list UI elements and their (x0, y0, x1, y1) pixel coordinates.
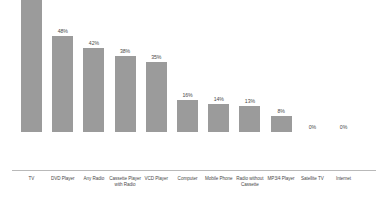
bar-column: 35% (141, 0, 172, 132)
bar (239, 106, 260, 132)
bar-group: 35% (141, 0, 172, 132)
bar-value-label: 13% (234, 98, 265, 104)
bar-value-label: 0% (297, 124, 328, 130)
bar-group: 48% (47, 0, 78, 132)
bar (83, 48, 104, 132)
bar-group: 16% (172, 0, 203, 132)
bar (208, 104, 229, 132)
bar-value-label: 8% (266, 108, 297, 114)
plot-area: 74%48%42%38%35%16%14%13%8%0%0% (0, 0, 385, 171)
bar-group: 14% (203, 0, 234, 132)
bar (21, 0, 42, 132)
bar-column: 8% (266, 0, 297, 132)
bar-group: 8% (266, 0, 297, 132)
bar-group: 0% (328, 0, 359, 132)
bar-value-label: 48% (47, 28, 78, 34)
bar-column: 0% (328, 0, 359, 132)
bar (146, 62, 167, 132)
bar-column: 42% (78, 0, 109, 132)
bar (52, 36, 73, 132)
bar (177, 100, 198, 132)
bar-value-label: 14% (203, 96, 234, 102)
bar (115, 56, 136, 132)
bar-value-label: 0% (328, 124, 359, 130)
bar-column: 0% (297, 0, 328, 132)
bar-column: 48% (47, 0, 78, 132)
bar-value-label: 16% (172, 92, 203, 98)
bar-chart: 74%48%42%38%35%16%14%13%8%0%0% TVDVD Pla… (0, 0, 385, 209)
bar (271, 116, 292, 132)
bar-column: 38% (110, 0, 141, 132)
bar-value-label: 35% (141, 54, 172, 60)
bar-value-label: 38% (110, 48, 141, 54)
bar-column: 14% (203, 0, 234, 132)
bar-group: 42% (78, 0, 109, 132)
bar-column: 16% (172, 0, 203, 132)
bar-group: 0% (297, 0, 328, 132)
bar-column: 74% (16, 0, 47, 132)
bars-layer: 74%48%42%38%35%16%14%13%8%0%0% (0, 0, 385, 171)
bar-group: 74% (16, 0, 47, 132)
bar-value-label: 42% (78, 40, 109, 46)
bar-column: 13% (234, 0, 265, 132)
bar-group: 38% (110, 0, 141, 132)
x-axis-line (12, 170, 376, 171)
category-label: Internet (324, 176, 363, 182)
bar-group: 13% (234, 0, 265, 132)
